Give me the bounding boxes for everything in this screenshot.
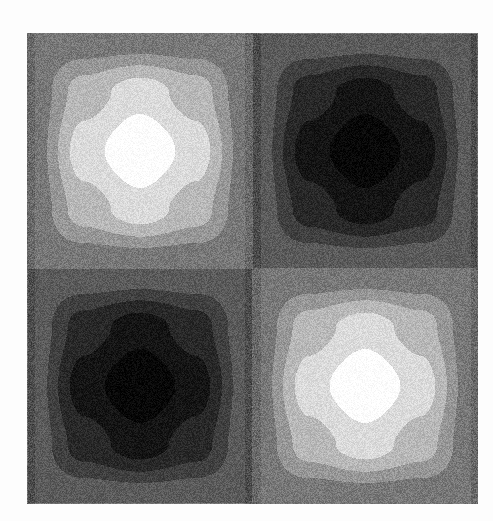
figure xyxy=(0,0,493,521)
heatmap-canvas xyxy=(27,33,478,504)
heatmap-plot-area xyxy=(27,33,478,504)
